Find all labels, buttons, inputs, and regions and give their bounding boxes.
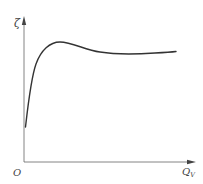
y-axis-arrow-icon	[22, 16, 26, 25]
diagram: ζ O QV	[0, 0, 203, 184]
x-axis-label-subscript: V	[190, 171, 196, 179]
x-axis-label-main: Q	[182, 166, 190, 177]
y-axis-label: ζ	[14, 17, 21, 30]
x-axis-arrow-icon	[187, 160, 196, 164]
origin-label: O	[13, 167, 21, 178]
x-axis-label: QV	[182, 166, 196, 179]
curve-zeta-vs-qv	[26, 42, 177, 127]
